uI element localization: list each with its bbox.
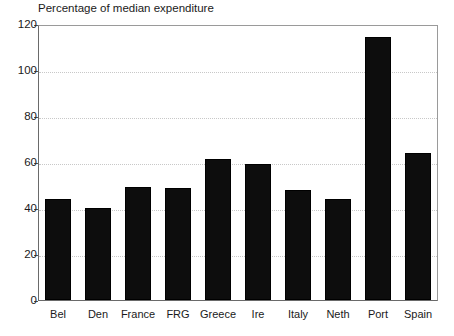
y-tick-label: 60 [0, 157, 37, 169]
x-tick-label: FRG [158, 308, 198, 320]
plot-area [38, 25, 438, 301]
x-tick-label: Greece [198, 308, 238, 320]
chart-title: Percentage of median expenditure [38, 1, 214, 15]
x-tick-label: Port [358, 308, 398, 320]
y-tick-label: 20 [0, 249, 37, 261]
bar [85, 208, 111, 300]
y-tick-label: 80 [0, 111, 37, 123]
y-tick-label: 120 [0, 19, 37, 31]
bar [205, 159, 231, 300]
x-tick-label: Spain [398, 308, 438, 320]
x-tick-label: Ire [238, 308, 278, 320]
x-tick-label: Italy [278, 308, 318, 320]
bar [45, 199, 71, 300]
y-tick-label: 100 [0, 65, 37, 77]
y-tick-label: 0 [0, 295, 37, 307]
bar [365, 37, 391, 300]
bar-chart: Percentage of median expenditure 0204060… [0, 0, 454, 336]
x-tick-label: Den [78, 308, 118, 320]
bar [325, 199, 351, 300]
bar [165, 188, 191, 300]
x-tick-label: Bel [38, 308, 78, 320]
bar [125, 187, 151, 300]
bar [405, 153, 431, 300]
x-tick-label: France [118, 308, 158, 320]
bar [285, 190, 311, 300]
y-tick-label: 40 [0, 203, 37, 215]
x-tick-label: Neth [318, 308, 358, 320]
bar [245, 164, 271, 300]
